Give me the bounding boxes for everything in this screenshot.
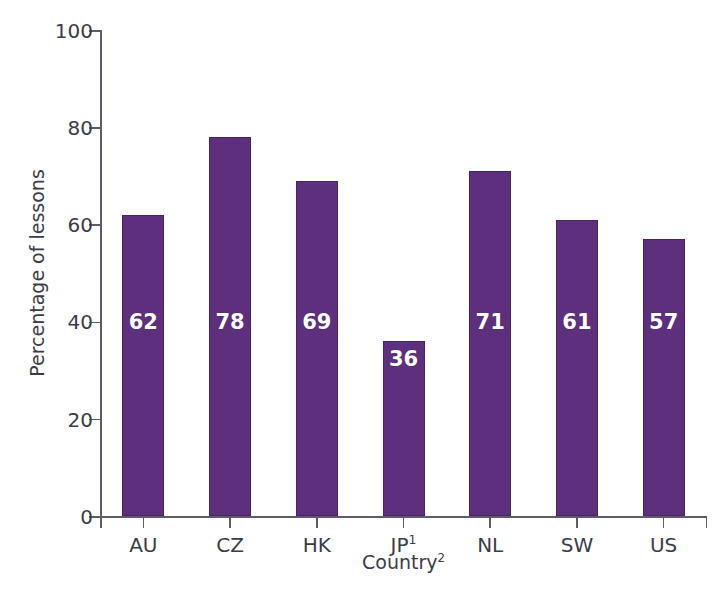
x-axis-title: Country2 <box>100 553 707 572</box>
x-axis-tick <box>403 517 405 528</box>
x-axis-category-label: CZ <box>216 535 244 555</box>
x-axis-tick <box>489 517 491 528</box>
y-axis-tick-label: 100 <box>55 21 93 41</box>
bar: 62 <box>122 215 164 516</box>
y-axis-tick-label: 80 <box>68 118 93 138</box>
x-axis-title-text: Country <box>362 551 437 573</box>
x-axis-category-footnote: 1 <box>409 532 417 547</box>
bar-value-label: 71 <box>476 312 505 333</box>
bar-value-label: 62 <box>129 312 158 333</box>
y-axis-title-text: Percentage of lessons <box>28 169 47 377</box>
x-axis-title-footnote: 2 <box>437 551 445 565</box>
page-caption-strip <box>0 600 721 611</box>
bar: 71 <box>469 171 511 516</box>
bar-value-label: 69 <box>302 312 331 333</box>
x-axis-tick <box>663 517 665 528</box>
x-axis-category-label: AU <box>129 535 157 555</box>
bar: 78 <box>209 137 251 516</box>
y-axis-tick-label: 40 <box>68 312 93 332</box>
y-axis-title: Percentage of lessons <box>22 30 52 516</box>
x-axis-category-label: NL <box>477 535 503 555</box>
x-axis-tick <box>576 517 578 528</box>
plot-area: 02040608010062AU78CZ69HK36JP171NL61SW57U… <box>100 30 707 516</box>
bar-value-label: 61 <box>562 312 591 333</box>
y-axis-tick-label: 60 <box>68 215 93 235</box>
x-axis-tick <box>316 517 318 528</box>
y-axis-tick-label: 0 <box>80 507 93 527</box>
bar: 61 <box>556 220 598 516</box>
y-axis-tick-label: 20 <box>68 410 93 430</box>
bar: 36 <box>383 341 425 516</box>
bar-value-label: 78 <box>215 312 244 333</box>
x-axis-tick <box>706 517 708 528</box>
x-axis-tick <box>229 517 231 528</box>
x-axis-tick <box>100 517 102 528</box>
x-axis-category-label: SW <box>561 535 593 555</box>
x-axis-tick <box>143 517 145 528</box>
x-axis-category-label: US <box>650 535 677 555</box>
bar-value-label: 36 <box>389 349 418 370</box>
x-axis-category-label: HK <box>303 535 331 555</box>
bar: 69 <box>296 181 338 516</box>
bar: 57 <box>643 239 685 516</box>
bar-value-label: 57 <box>649 312 678 333</box>
bar-chart-figure: Percentage of lessons 02040608010062AU78… <box>0 0 721 611</box>
